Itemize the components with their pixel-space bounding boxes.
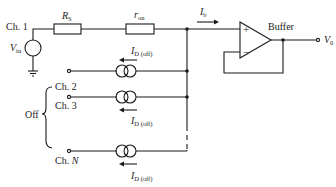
channel-2-label: Ch. 2 (55, 81, 77, 92)
leak-label-1: ID (off) (130, 45, 152, 58)
terminal-chN (67, 149, 70, 152)
channel-n-label: Ch. N (55, 155, 80, 166)
leak-arrowhead-1 (119, 58, 124, 63)
buffer-label: Buffer (268, 21, 295, 32)
ib-arrowhead (214, 20, 219, 25)
off-brace (42, 87, 52, 148)
resistor-rs (54, 24, 81, 34)
plus-input: + (243, 23, 249, 35)
leak-label-n: ID (off) (130, 170, 152, 183)
minus-input: − (243, 46, 249, 58)
ib-label: Ib (199, 6, 207, 18)
vin-label: Vin (10, 42, 22, 54)
junction-row1 (185, 69, 189, 73)
ron-label: ron (134, 9, 145, 21)
current-source-icon-2 (124, 65, 136, 77)
channel-1-label: Ch. 1 (6, 21, 28, 32)
circuit-diagram: Ch. 1 RS ron Ib Vin ID (off) Ch. 2 Ch. 3… (0, 0, 336, 187)
wire-ch1-to-rs (33, 29, 54, 37)
leak-arrowhead-2 (119, 108, 124, 113)
leak-label-2: ID (off) (130, 115, 152, 128)
output-terminal (316, 38, 319, 41)
channel-3-label: Ch. 3 (55, 100, 77, 111)
junction-row2 (185, 95, 189, 99)
current-source-icon-row2b (124, 91, 136, 103)
resistor-ron (126, 24, 154, 34)
voltage-source-icon (25, 40, 41, 56)
off-group-label: Off (25, 109, 39, 120)
feedback-wire (224, 40, 283, 73)
vout-label: V0 (324, 34, 333, 46)
terminal-ch2 (67, 95, 70, 98)
rs-label: RS (61, 10, 72, 22)
current-source-icon-rowNb (124, 145, 136, 157)
leak-arrowhead-n (119, 162, 124, 167)
terminal-ch-row1 (67, 69, 70, 72)
